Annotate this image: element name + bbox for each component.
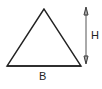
height-label: H: [91, 29, 99, 41]
base-label: B: [39, 70, 46, 82]
triangle-diagram: H B: [0, 0, 102, 89]
height-arrow: [84, 7, 88, 64]
triangle-shape: [7, 9, 81, 66]
